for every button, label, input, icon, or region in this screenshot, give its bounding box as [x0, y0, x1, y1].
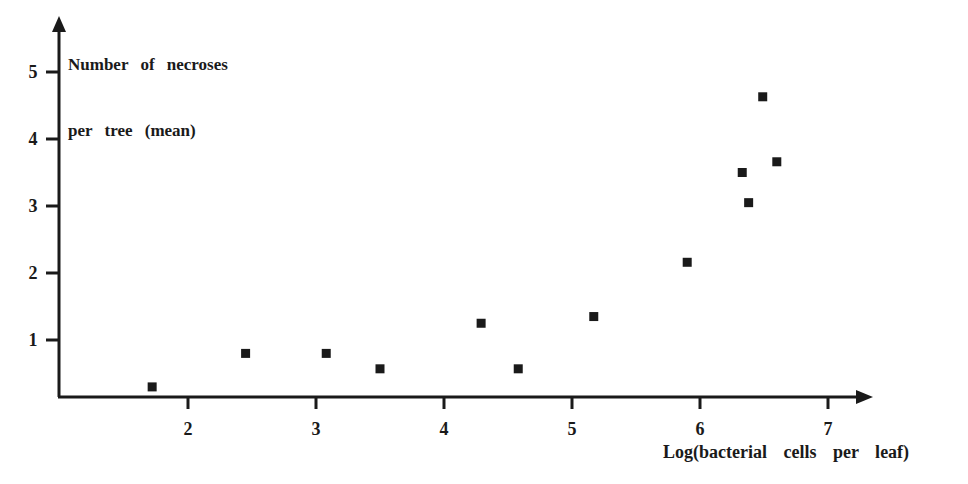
data-point-marker	[683, 258, 692, 267]
y-axis-arrow-icon	[52, 16, 66, 32]
data-point-marker	[772, 157, 781, 166]
y-tick-label: 4	[29, 129, 38, 150]
y-axis-label-line-1: Number of necroses	[68, 54, 228, 76]
data-point-marker	[241, 349, 250, 358]
x-tick-label: 7	[824, 419, 833, 440]
data-point-marker	[322, 349, 331, 358]
y-axis-label: Number of necroses per tree (mean)	[68, 10, 228, 164]
x-tick-label: 2	[184, 419, 193, 440]
x-tick-label: 4	[440, 419, 449, 440]
data-points	[148, 92, 782, 391]
x-axis-label: Log(bacterial cells per leaf)	[663, 442, 909, 463]
y-tick-label: 5	[29, 62, 38, 83]
y-tick-label: 3	[29, 196, 38, 217]
data-point-marker	[514, 364, 523, 373]
data-point-marker	[758, 92, 767, 101]
x-tick-label: 5	[568, 419, 577, 440]
data-point-marker	[589, 312, 598, 321]
x-axis-arrow-icon	[856, 390, 873, 404]
y-tick-label: 2	[29, 263, 38, 284]
y-tick-label: 1	[29, 330, 38, 351]
data-point-marker	[376, 364, 385, 373]
y-axis-label-line-2: per tree (mean)	[68, 120, 228, 142]
x-tick-label: 6	[696, 419, 705, 440]
x-tick-label: 3	[312, 419, 321, 440]
data-point-marker	[738, 168, 747, 177]
data-point-marker	[148, 382, 157, 391]
data-point-marker	[477, 319, 486, 328]
data-point-marker	[744, 198, 753, 207]
